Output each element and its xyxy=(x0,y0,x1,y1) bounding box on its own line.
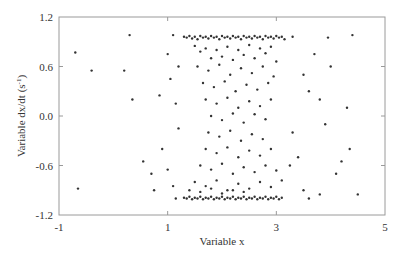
y-tick-label: 0.6 xyxy=(39,61,53,73)
data-point xyxy=(191,37,193,39)
data-point xyxy=(232,35,234,37)
data-point xyxy=(275,196,277,198)
data-point xyxy=(232,173,234,175)
data-point xyxy=(183,36,185,38)
y-tick-label: 0.0 xyxy=(39,110,53,122)
data-point xyxy=(210,196,212,198)
data-point xyxy=(183,197,185,199)
y-tick-label: -0.6 xyxy=(36,160,54,172)
data-point xyxy=(188,35,190,37)
data-point xyxy=(245,84,247,86)
data-point xyxy=(232,112,234,114)
data-point xyxy=(194,197,196,199)
data-point xyxy=(218,197,220,199)
data-point xyxy=(150,173,152,175)
data-point xyxy=(275,60,277,62)
data-point xyxy=(308,90,310,92)
data-point xyxy=(253,57,255,59)
data-point xyxy=(74,51,76,53)
data-point xyxy=(270,36,272,38)
data-point xyxy=(224,80,226,82)
data-point xyxy=(194,45,196,47)
data-point xyxy=(199,191,201,193)
data-point xyxy=(210,35,212,37)
data-point xyxy=(205,47,207,49)
data-point xyxy=(243,54,245,56)
data-point xyxy=(259,47,261,49)
data-point xyxy=(202,36,204,38)
data-point xyxy=(275,169,277,171)
data-point xyxy=(215,36,217,38)
data-point xyxy=(264,52,266,54)
data-point xyxy=(270,148,272,150)
data-point xyxy=(234,36,236,38)
data-point xyxy=(262,38,264,40)
data-point xyxy=(215,197,217,199)
data-point xyxy=(272,75,274,77)
data-point xyxy=(264,118,266,120)
data-point xyxy=(251,133,253,135)
data-point xyxy=(346,107,348,109)
data-point xyxy=(161,148,163,150)
data-point xyxy=(272,37,274,39)
data-point xyxy=(177,65,179,67)
data-point xyxy=(191,198,193,200)
data-point xyxy=(196,65,198,67)
data-point xyxy=(207,131,209,133)
data-point xyxy=(169,78,171,80)
data-point xyxy=(167,53,169,55)
data-point xyxy=(221,163,223,165)
data-point xyxy=(221,35,223,37)
data-point xyxy=(253,35,255,37)
data-point xyxy=(324,123,326,125)
x-tick-label: 1 xyxy=(165,221,171,233)
data-point xyxy=(237,156,239,158)
data-point xyxy=(237,197,239,199)
data-point xyxy=(351,34,353,36)
data-point xyxy=(131,98,133,100)
data-point xyxy=(221,196,223,198)
data-point xyxy=(188,196,190,198)
data-point xyxy=(199,164,201,166)
data-point xyxy=(253,196,255,198)
data-point xyxy=(207,197,209,199)
data-point xyxy=(232,189,234,191)
data-point xyxy=(308,197,310,199)
data-point xyxy=(291,131,293,133)
data-point xyxy=(243,191,245,193)
data-point xyxy=(243,121,245,123)
data-point xyxy=(205,148,207,150)
data-point xyxy=(224,198,226,200)
data-point xyxy=(264,164,266,166)
data-point xyxy=(281,197,283,199)
data-point xyxy=(186,197,188,199)
data-point xyxy=(289,164,291,166)
data-point xyxy=(188,189,190,191)
data-point xyxy=(237,36,239,38)
data-point xyxy=(297,156,299,158)
data-point xyxy=(251,197,253,199)
data-point xyxy=(259,181,261,183)
data-point xyxy=(259,197,261,199)
data-point xyxy=(264,35,266,37)
data-point xyxy=(205,36,207,38)
data-point xyxy=(226,97,228,99)
data-point xyxy=(240,67,242,69)
data-point xyxy=(232,59,234,61)
data-point xyxy=(210,187,212,189)
data-point xyxy=(186,36,188,38)
data-point xyxy=(77,187,79,189)
data-point xyxy=(270,98,272,100)
data-point xyxy=(218,135,220,137)
data-point xyxy=(248,149,250,151)
data-point xyxy=(275,35,277,37)
data-point xyxy=(281,36,283,38)
data-point xyxy=(248,36,250,38)
data-point xyxy=(215,179,217,181)
data-point xyxy=(330,65,332,67)
data-point xyxy=(262,65,264,67)
data-point xyxy=(207,69,209,71)
data-point xyxy=(207,37,209,39)
data-point xyxy=(229,197,231,199)
scatter-points xyxy=(74,34,359,201)
